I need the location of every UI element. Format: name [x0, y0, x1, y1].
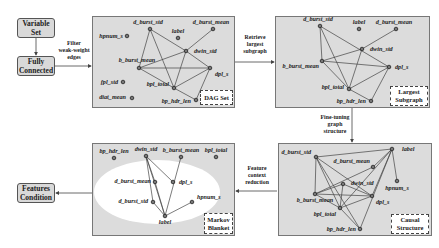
graph-node-label — [390, 147, 394, 151]
graph-edge — [322, 49, 362, 61]
causal-structure-tag-line: Causal — [400, 216, 419, 224]
graph-node-fpl-std — [121, 80, 125, 84]
graph-node-hpnum-s — [125, 34, 129, 38]
node-label: b_burst_mean — [297, 196, 334, 203]
node-label: b_burst_mean — [163, 146, 200, 153]
pipeline-diagram: Variable Set Fully Connected Features Co… — [0, 0, 439, 248]
graph-node-b-burst-mean — [179, 155, 183, 159]
node-label: bp_hdr_len — [162, 97, 192, 104]
node-label: dpl_s — [395, 63, 409, 70]
node-label: d_burst_std — [281, 148, 311, 155]
node-label: dwin_std — [370, 45, 394, 52]
node-label: hpnum_s — [99, 32, 123, 39]
largest-subgraph-tag-line: Largest — [398, 88, 419, 96]
node-label: bp_hdr_len — [327, 225, 357, 232]
graph-node-diat-mean — [130, 96, 134, 100]
graph-edge — [373, 149, 392, 167]
node-label: d_burst_std — [118, 197, 148, 204]
graph-edge — [315, 157, 316, 194]
node-label: bpl_total — [205, 146, 228, 153]
node-label: d_burst_mean — [334, 157, 371, 164]
markov-blanket-tag: Markov Blanket — [204, 213, 233, 234]
node-label: dwin_std — [194, 47, 218, 54]
graph-node-bp-hdr-len — [194, 98, 198, 102]
node-label: label — [402, 145, 415, 152]
graph-node-dwin-std — [184, 49, 188, 53]
node-label: hpnum_s — [385, 184, 409, 191]
markov-blanket-ellipse — [94, 160, 220, 224]
graph-node-dpl-s — [370, 194, 374, 198]
node-label: dpl_s — [376, 198, 390, 205]
graph-node-d-burst-mean — [394, 27, 398, 31]
node-label: fpl_std — [101, 78, 119, 85]
graph-edge — [340, 184, 343, 208]
graph-node-dpl-s — [387, 65, 391, 69]
graph-node-hpnum-s — [395, 179, 399, 183]
node-label: dpl_s — [179, 178, 193, 185]
graph-node-dpl-s — [208, 66, 212, 70]
node-label: d_burst_mean — [376, 18, 413, 25]
dag-set-tag-text: DAG Set — [204, 94, 229, 102]
node-label: dpl_s — [215, 70, 229, 77]
graph-node-bpl-total — [172, 86, 176, 90]
graph-node-b-burst-mean — [137, 66, 141, 70]
node-label: bpl_total — [314, 210, 337, 217]
node-label: bp_hdr_len — [337, 97, 367, 104]
graph-edge — [322, 61, 389, 67]
graph-node-b-burst-mean — [320, 59, 324, 63]
graph-node-dpl-s — [171, 180, 175, 184]
node-label: label — [172, 27, 185, 34]
node-label: d_burst_mean — [115, 177, 152, 184]
graph-node-bpl-total — [347, 87, 351, 91]
markov-blanket-tag-line: Markov — [207, 216, 229, 224]
graph-edge — [392, 149, 397, 181]
graph-layer: d_burst_stdd_burst_meanhpnum_slabeldwin_… — [0, 0, 439, 248]
graph-node-bp-hdr-len — [358, 227, 362, 231]
node-label: bpl_total — [147, 80, 170, 87]
largest-subgraph-tag-line: Subgraph — [395, 96, 422, 104]
node-label: d_burst_std — [303, 15, 333, 22]
graph-edge — [316, 149, 392, 157]
node-label: dwin_std — [351, 179, 375, 186]
graph-node-d-burst-std — [318, 24, 322, 28]
graph-node-label — [357, 27, 361, 31]
largest-subgraph-tag: Largest Subgraph — [390, 86, 428, 106]
graph-node-hpnum-s — [190, 200, 194, 204]
node-label: d_burst_mean — [193, 18, 230, 25]
graph-edge — [315, 184, 343, 194]
graph-node-d-burst-mean — [153, 180, 157, 184]
graph-edge — [320, 26, 322, 61]
node-label: d_burst_std — [133, 18, 163, 25]
node-label: diat_mean — [99, 93, 126, 100]
graph-node-d-burst-mean — [371, 165, 375, 169]
graph-node-label — [176, 36, 180, 40]
graph-node-bp-hdr-len — [112, 156, 116, 160]
dag-set-tag: DAG Set — [200, 90, 233, 105]
graph-node-dwin-std — [360, 47, 364, 51]
node-label: label — [159, 218, 172, 225]
node-label: b_burst_mean — [283, 62, 320, 69]
graph-node-d-burst-std — [151, 200, 155, 204]
graph-node-d-burst-std — [148, 27, 152, 31]
causal-structure-tag-line: Structure — [397, 224, 424, 232]
node-label: bp_hdr_len — [99, 147, 129, 154]
graph-node-d-burst-mean — [211, 27, 215, 31]
graph-node-d-burst-std — [314, 155, 318, 159]
node-label: label — [353, 18, 366, 25]
markov-blanket-tag-line: Blanket — [208, 224, 230, 232]
graph-node-bpl-total — [214, 155, 218, 159]
graph-node-dwin-std — [341, 182, 345, 186]
graph-node-bp-hdr-len — [369, 99, 373, 103]
node-label: b_burst_mean — [119, 56, 156, 63]
graph-node-bpl-total — [338, 206, 342, 210]
node-label: bpl_total — [322, 83, 345, 90]
node-label: hpnum_s — [197, 193, 221, 200]
causal-structure-tag: Causal Structure — [391, 214, 429, 234]
node-label: dwin_std — [135, 145, 159, 152]
graph-node-dwin-std — [144, 154, 148, 158]
graph-edge — [340, 196, 372, 208]
